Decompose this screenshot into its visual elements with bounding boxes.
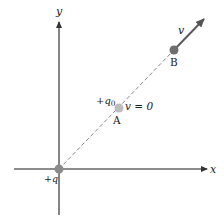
source-charge-label: +q <box>44 173 58 184</box>
test-charge-label: +q0 <box>96 95 116 108</box>
velocity-label-A: v = 0 <box>125 100 153 112</box>
test-charge-label-main: +q <box>96 95 111 106</box>
point-B-label: B <box>170 56 178 68</box>
electric-potential-diagram: y x v +q A v = 0 +q0 B <box>0 0 224 222</box>
point-B-dot <box>170 46 179 55</box>
point-A-label: A <box>112 114 121 126</box>
velocity-label-B: v <box>178 24 185 37</box>
point-A-dot <box>115 104 124 113</box>
test-charge-label-sub: 0 <box>111 99 116 108</box>
y-axis-label: y <box>55 5 63 18</box>
x-axis-label: x <box>210 163 217 176</box>
